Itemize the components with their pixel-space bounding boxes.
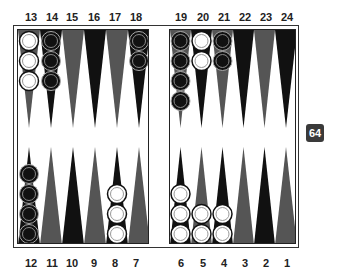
point-label-13: 13: [20, 10, 42, 24]
outer-board-points[interactable]: [18, 30, 149, 244]
home-board[interactable]: [169, 29, 296, 244]
point-label-8: 8: [104, 256, 126, 270]
point-label-11: 11: [41, 256, 63, 270]
point-label-4: 4: [213, 256, 235, 270]
checkers-point-8: [108, 185, 127, 244]
backgammon-board: [13, 25, 299, 248]
point-label-23: 23: [255, 10, 277, 24]
outer-board[interactable]: [17, 29, 149, 244]
point-label-15: 15: [61, 10, 83, 24]
point-label-19: 19: [170, 10, 192, 24]
bottom-point-labels: 12 11 10 9 8 7 6 5 4 3 2 1: [0, 256, 342, 270]
point-label-6: 6: [170, 256, 192, 270]
home-board-points[interactable]: [170, 30, 296, 244]
point-label-20: 20: [192, 10, 214, 24]
point-label-3: 3: [234, 256, 256, 270]
point-label-1: 1: [276, 256, 298, 270]
point-label-21: 21: [213, 10, 235, 24]
point-label-12: 12: [20, 256, 42, 270]
point-label-9: 9: [83, 256, 105, 270]
doubling-cube[interactable]: 64: [306, 124, 324, 142]
checkers-point-6: [171, 185, 190, 244]
point-label-5: 5: [192, 256, 214, 270]
point-label-17: 17: [104, 10, 126, 24]
point-label-10: 10: [61, 256, 83, 270]
point-label-24: 24: [276, 10, 298, 24]
point-label-22: 22: [234, 10, 256, 24]
point-label-18: 18: [125, 10, 147, 24]
point-label-14: 14: [41, 10, 63, 24]
checkers-point-13: [20, 32, 39, 91]
checkers-point-19: [171, 32, 190, 111]
point-label-2: 2: [255, 256, 277, 270]
checkers-point-14: [42, 32, 61, 91]
checkers-point-12: [20, 165, 39, 244]
point-label-16: 16: [83, 10, 105, 24]
point-label-7: 7: [125, 256, 147, 270]
top-point-labels: 13 14 15 16 17 18 19 20 21 22 23 24: [0, 10, 342, 24]
